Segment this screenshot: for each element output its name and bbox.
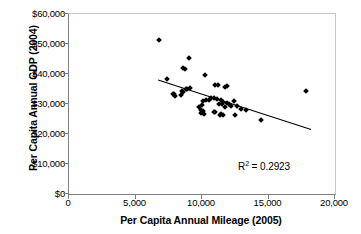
data-point [165, 77, 171, 83]
data-point [157, 38, 163, 44]
data-point [201, 111, 207, 117]
y-tick-label: $40,000 [7, 68, 65, 79]
x-tick-mark [68, 194, 69, 199]
data-point [258, 117, 264, 123]
y-tick-mark [63, 163, 68, 164]
y-tick-label: $20,000 [7, 128, 65, 139]
x-tick-mark [201, 194, 202, 199]
y-tick-label: $60,000 [7, 8, 65, 19]
r-squared-annotation: R2 = 0.2923 [238, 160, 290, 172]
y-tick-mark [63, 13, 68, 14]
r-squared-value: = 0.2923 [252, 161, 290, 172]
y-tick-label: $30,000 [7, 98, 65, 109]
x-axis-title: Per Capita Annual Mileage (2005) [68, 214, 334, 226]
data-point [202, 72, 208, 78]
x-tick-mark [268, 194, 269, 199]
x-tick-label: 20,000 [304, 197, 361, 208]
data-point [183, 66, 189, 72]
data-point [243, 107, 249, 113]
data-point [186, 55, 192, 61]
x-tick-mark [334, 194, 335, 199]
y-tick-label: $50,000 [7, 38, 65, 49]
data-point [232, 113, 238, 119]
scatter-chart: Per Capita Annual GDP (2004) R2 = 0.2923… [0, 0, 361, 234]
y-tick-mark [63, 133, 68, 134]
y-tick-mark [63, 43, 68, 44]
data-point [172, 93, 178, 99]
data-point [215, 82, 221, 88]
y-tick-mark [63, 103, 68, 104]
plot-area [68, 13, 336, 195]
data-point [303, 89, 309, 95]
data-points-layer [69, 14, 335, 194]
y-tick-label: $10,000 [7, 158, 65, 169]
x-tick-mark [135, 194, 136, 199]
y-tick-mark [63, 73, 68, 74]
